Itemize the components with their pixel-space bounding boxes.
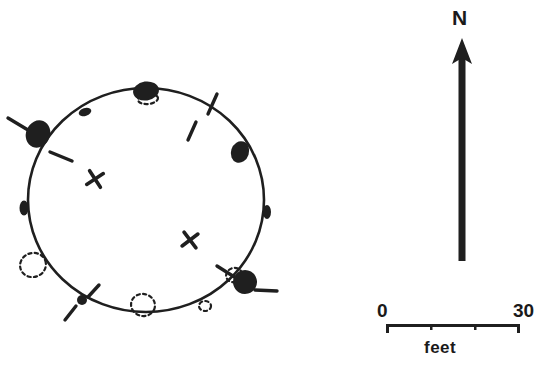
structure-plan-group bbox=[8, 80, 277, 320]
inferred-post-south-center-icon bbox=[129, 291, 158, 318]
north-arrow bbox=[452, 38, 472, 261]
structure-wall-outline bbox=[28, 88, 264, 312]
tick-northeast-lower-icon bbox=[188, 122, 196, 140]
inferred-post-south-east-icon bbox=[199, 301, 211, 311]
tick-northwest-inner-icon bbox=[50, 152, 72, 161]
tick-south-lower-icon bbox=[65, 306, 76, 320]
tick-northwest-outer-icon bbox=[8, 118, 28, 130]
interior-feature-marks bbox=[87, 171, 198, 248]
scale-bar-tick-2 bbox=[474, 324, 477, 330]
scale-bar-units-label: feet bbox=[424, 338, 456, 358]
scale-bar-cap-left bbox=[386, 324, 389, 333]
inferred-post-southwest-icon bbox=[17, 250, 49, 281]
post-northwest-large-icon bbox=[22, 117, 55, 152]
tick-southeast-lower-icon bbox=[255, 290, 277, 291]
site-plan-canvas bbox=[0, 0, 556, 372]
post-west-small-icon bbox=[20, 201, 29, 216]
excavated-post-molds bbox=[20, 80, 272, 305]
scale-bar-max-label: 30 bbox=[513, 300, 534, 322]
scale-bar-tick-1 bbox=[430, 324, 433, 330]
interior-feature-lower-icon bbox=[182, 232, 198, 248]
tick-south-upper-icon bbox=[88, 285, 99, 297]
interior-feature-upper-icon bbox=[87, 171, 104, 188]
post-east-small-icon bbox=[263, 205, 271, 219]
scale-bar-line bbox=[386, 324, 520, 327]
inferred-post-outlines bbox=[17, 93, 244, 319]
scale-bar bbox=[386, 324, 520, 333]
scale-bar-cap-right bbox=[517, 324, 520, 333]
scale-bar-min-label: 0 bbox=[377, 300, 388, 322]
site-plan-figure: N 0 30 feet bbox=[0, 0, 556, 372]
north-arrow-label: N bbox=[452, 6, 467, 30]
post-north-icon bbox=[132, 80, 160, 102]
post-southeast-large-icon bbox=[230, 267, 259, 296]
post-south-small-icon bbox=[77, 295, 87, 305]
north-arrow-shaft bbox=[459, 48, 466, 261]
